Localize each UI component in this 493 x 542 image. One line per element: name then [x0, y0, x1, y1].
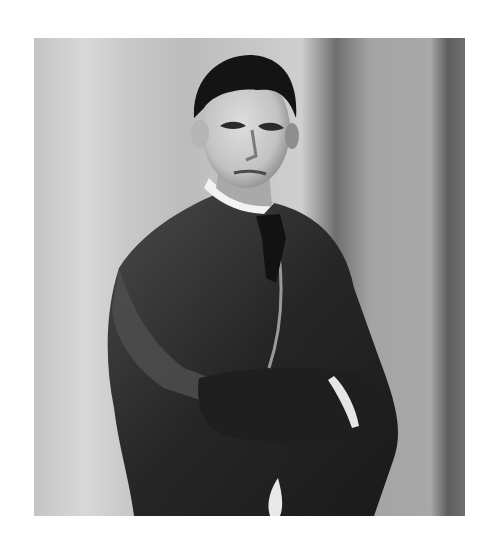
portrait-photo	[34, 38, 465, 516]
right-ear	[285, 123, 299, 149]
left-ear	[191, 120, 209, 148]
crossed-arms	[198, 368, 385, 442]
portrait-drawing	[34, 38, 465, 516]
